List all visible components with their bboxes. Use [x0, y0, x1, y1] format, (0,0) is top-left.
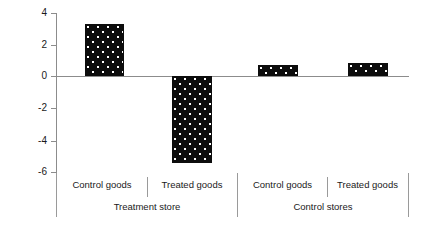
cat-label-treatment-treated-goods: Treated goods	[147, 179, 237, 190]
cat-label-treatment-control-goods: Control goods	[57, 179, 147, 190]
cat-label-control-control-goods: Control goods	[238, 179, 327, 190]
group-label-control-stores: Control stores	[238, 201, 408, 212]
bar-control-stores-treated-goods	[348, 63, 388, 76]
group-label-treatment-store: Treatment store	[57, 201, 237, 212]
y-tick-label-2: 2	[7, 40, 47, 50]
y-tick-label-4: 4	[7, 8, 47, 18]
bar-treatment-store-control-goods	[85, 24, 124, 76]
y-tick-mark-4	[51, 13, 56, 14]
y-tick-mark-2	[51, 45, 56, 46]
cat-label-control-treated-goods: Treated goods	[327, 179, 408, 190]
bar-treatment-store-treated-goods	[172, 76, 212, 163]
y-tick-mark--2	[51, 108, 56, 109]
cat-divider-right-edge	[408, 173, 409, 197]
y-axis-spine	[56, 13, 57, 173]
y-tick-label--2: -2	[7, 103, 47, 113]
bar-chart: Percentage change in demand 4 2 0 -2 -4 …	[0, 0, 430, 235]
y-tick-mark--4	[51, 141, 56, 142]
group-divider-right-edge	[408, 197, 409, 217]
category-axis: Control goods Treated goods Control good…	[0, 173, 430, 235]
y-tick-label--4: -4	[7, 136, 47, 146]
zero-baseline	[56, 76, 409, 77]
bar-control-stores-control-goods	[258, 65, 298, 76]
y-tick-label-0: 0	[7, 71, 47, 81]
